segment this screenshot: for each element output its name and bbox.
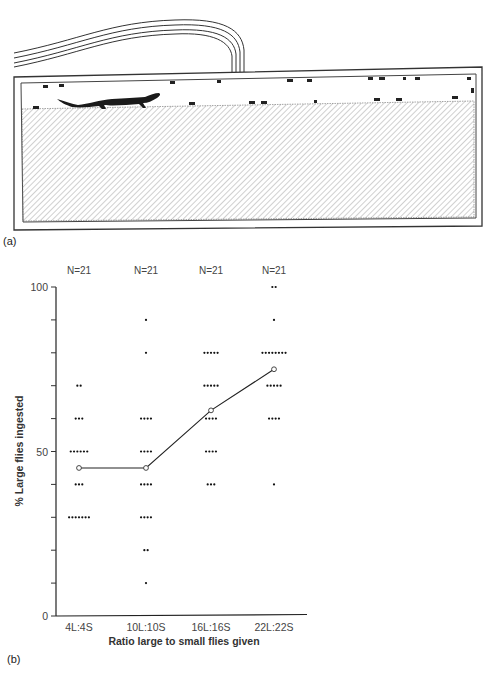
sample-size-label: N=21 <box>134 265 159 276</box>
data-point <box>70 450 72 452</box>
fly-icon <box>368 77 373 80</box>
mean-marker <box>144 466 149 471</box>
fly-icon <box>249 101 255 104</box>
data-point <box>284 352 286 354</box>
sample-size-label: N=21 <box>262 265 287 276</box>
y-tick-label: 50 <box>36 446 48 458</box>
data-point <box>278 352 280 354</box>
data-point <box>147 418 149 420</box>
data-point <box>140 483 142 485</box>
fly-icon <box>415 77 420 80</box>
fly-icon <box>452 96 458 99</box>
data-point <box>73 450 75 452</box>
data-point <box>143 516 145 518</box>
y-tick-label: 0 <box>42 610 48 622</box>
data-point <box>80 450 82 452</box>
data-point <box>270 385 272 387</box>
data-point <box>78 483 80 485</box>
y-axis-title: % Large flies ingested <box>13 396 25 507</box>
data-point <box>85 516 87 518</box>
data-point <box>213 352 215 354</box>
data-point <box>207 352 209 354</box>
data-point <box>88 516 90 518</box>
fly-icon <box>287 79 293 82</box>
data-point <box>143 418 145 420</box>
data-point <box>271 418 273 420</box>
data-point <box>78 516 80 518</box>
data-point <box>80 385 82 387</box>
mean-marker <box>209 408 214 413</box>
data-point <box>281 352 283 354</box>
panel-a-illustration <box>14 20 482 230</box>
data-point <box>210 352 212 354</box>
data-point <box>213 385 215 387</box>
data-point <box>81 483 83 485</box>
data-point <box>203 352 205 354</box>
data-point <box>71 516 73 518</box>
sample-size-label: N=21 <box>199 265 224 276</box>
chart: 050100 4L:4S10L:10S16L:16S22L:22S N=21N=… <box>13 265 307 647</box>
data-point <box>207 483 209 485</box>
data-point <box>217 352 219 354</box>
fly-icon <box>379 77 385 80</box>
data-point <box>278 418 280 420</box>
mean-line <box>79 369 274 468</box>
fly-icon <box>314 100 317 103</box>
panel-a-label: (a) <box>3 235 16 247</box>
data-point <box>145 352 147 354</box>
y-tick-labels: 050100 <box>30 281 48 622</box>
data-point <box>150 483 152 485</box>
data-point <box>150 418 152 420</box>
data-point <box>276 385 278 387</box>
x-tick-label: 22L:22S <box>254 621 293 633</box>
data-point <box>147 549 149 551</box>
data-point <box>210 483 212 485</box>
data-point <box>140 418 142 420</box>
data-point <box>147 516 149 518</box>
data-point <box>213 483 215 485</box>
data-point <box>75 516 77 518</box>
data-point <box>273 319 275 321</box>
data-point <box>78 418 80 420</box>
data-point <box>76 385 78 387</box>
data-point <box>207 385 209 387</box>
data-point <box>212 450 214 452</box>
data-point <box>140 516 142 518</box>
data-point <box>150 450 152 452</box>
data-point <box>212 418 214 420</box>
data-point <box>76 450 78 452</box>
mean-markers <box>77 367 277 471</box>
fly-icon <box>307 79 312 82</box>
fly-icon <box>396 98 402 101</box>
data-point <box>75 418 77 420</box>
data-point <box>275 352 277 354</box>
mean-marker <box>77 466 82 471</box>
x-axis <box>56 615 307 617</box>
data-point <box>217 385 219 387</box>
sample-size-labels: N=21N=21N=21N=21 <box>67 265 287 276</box>
x-tick-labels: 4L:4S10L:10S16L:16S22L:22S <box>65 621 293 633</box>
data-point <box>205 450 207 452</box>
fly-icon <box>217 80 221 83</box>
mean-marker <box>272 367 277 372</box>
data-point <box>208 450 210 452</box>
data-point <box>210 385 212 387</box>
x-tick-label: 10L:10S <box>126 621 165 633</box>
data-point <box>215 450 217 452</box>
data-point <box>261 352 263 354</box>
soil-hatch <box>22 101 474 221</box>
y-tick-label: 100 <box>30 281 48 293</box>
y-ticks <box>51 287 56 616</box>
data-point <box>143 483 145 485</box>
data-point <box>147 450 149 452</box>
data-point <box>145 319 147 321</box>
data-point <box>265 352 267 354</box>
fly-icon <box>403 77 406 80</box>
data-point <box>140 450 142 452</box>
data-point <box>143 549 145 551</box>
data-point <box>68 516 70 518</box>
figure: (a) 050100 4L:4S10L:10S16L:16S22L:22S N=… <box>0 0 494 683</box>
data-point <box>215 418 217 420</box>
fly-icon <box>189 102 195 105</box>
data-points <box>68 286 287 584</box>
